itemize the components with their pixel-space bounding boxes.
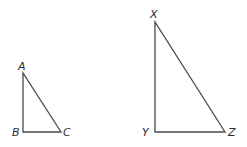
vertex-label-a: A	[17, 60, 26, 73]
vertex-label-y: Y	[142, 126, 150, 139]
triangle-xyz-outline	[155, 22, 225, 132]
vertex-label-b: B	[12, 126, 20, 139]
vertex-label-x: X	[149, 8, 158, 21]
vertex-label-z: Z	[227, 126, 236, 139]
triangle-xyz: X Y Z	[142, 8, 236, 139]
triangle-abc-outline	[23, 73, 61, 132]
vertex-label-c: C	[63, 126, 71, 139]
triangle-abc: A B C	[12, 60, 71, 139]
diagram-canvas: A B C X Y Z	[0, 0, 247, 147]
